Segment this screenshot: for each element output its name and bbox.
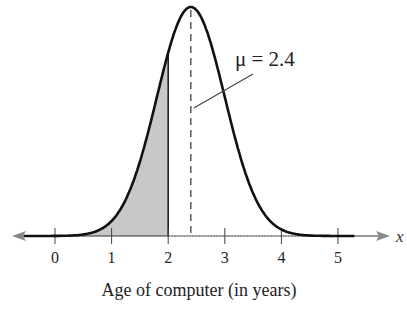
- x-tick-label: 2: [164, 249, 172, 266]
- x-axis-title: Age of computer (in years): [102, 280, 297, 301]
- x-tick-label: 3: [221, 249, 229, 266]
- x-tick-label: 1: [108, 249, 116, 266]
- mean-annotation-leader-line: [194, 74, 253, 108]
- x-tick-label: 5: [334, 249, 342, 266]
- normal-distribution-chart: 012345 μ = 2.4 x Age of computer (in yea…: [0, 0, 407, 319]
- normal-curve: [24, 7, 355, 236]
- x-tick-label: 4: [277, 249, 285, 266]
- mean-annotation-label: μ = 2.4: [235, 47, 295, 71]
- x-axis-tick-labels: 012345: [51, 249, 342, 266]
- shaded-area-left-of-2: [24, 53, 168, 236]
- x-axis-variable: x: [395, 227, 404, 246]
- x-tick-label: 0: [51, 249, 59, 266]
